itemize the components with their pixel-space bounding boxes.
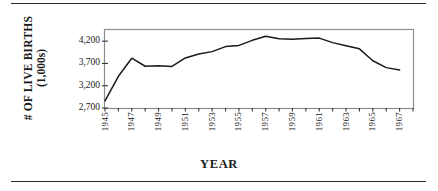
y-tick-label: 3,700: [79, 58, 100, 68]
x-tick-label: 1965: [368, 112, 377, 131]
x-tick-label: 1957: [261, 112, 270, 131]
y-tick-label: 3,200: [79, 81, 100, 91]
x-tick-label: 1963: [342, 112, 351, 131]
x-tick-label: 1945: [101, 112, 110, 131]
plot-frame: [105, 30, 414, 109]
x-tick-label: 1955: [234, 112, 243, 131]
x-tick-label: 1951: [181, 112, 190, 131]
x-tick-label: 1949: [154, 112, 163, 131]
x-tick-label: 1967: [395, 112, 404, 131]
figure-container: # OF LIVE BIRTHS (1,000s) 2,7003,2003,70…: [0, 0, 438, 191]
y-tick-labels: 2,7003,2003,7004,200: [56, 29, 100, 109]
x-tick-label: 1961: [315, 112, 324, 131]
x-tick-label: 1953: [208, 112, 217, 131]
births-line-series: [105, 36, 400, 101]
x-tick-label: 1959: [288, 112, 297, 131]
x-tick-labels: 1945194719491951195319551957195919611963…: [0, 112, 438, 154]
x-tick-label: 1947: [127, 112, 136, 131]
x-axis-title: YEAR: [0, 157, 438, 172]
plot-frame-rect: [105, 30, 414, 109]
y-tick-label: 4,200: [79, 36, 100, 46]
